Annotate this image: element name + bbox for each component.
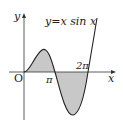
shaded-region-negative: [55, 72, 88, 115]
origin-label: O: [14, 72, 23, 85]
x-axis-label: x: [108, 72, 115, 85]
function-label: y=x sin x: [44, 15, 97, 28]
tick-label-2pi: 2π: [75, 60, 89, 71]
graph: y=x sin x y x O π 2π: [0, 0, 123, 127]
y-axis-label: y: [13, 10, 21, 23]
y-axis-arrow-icon: [22, 13, 26, 18]
tick-label-pi: π: [45, 74, 53, 85]
